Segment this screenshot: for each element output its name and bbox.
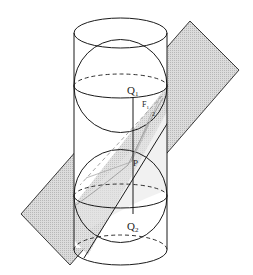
label-f2-mark: 2 xyxy=(152,111,155,117)
label-p: P xyxy=(133,158,138,168)
dandelin-spheres-diagram: Q1 F1 2 P Q2 xyxy=(0,0,253,275)
